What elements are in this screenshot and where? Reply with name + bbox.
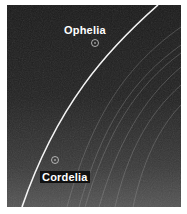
cordelia-label: Cordelia bbox=[40, 171, 90, 183]
ring-photo: Ophelia Cordelia bbox=[7, 5, 181, 207]
ophelia-label: Ophelia bbox=[64, 24, 106, 36]
